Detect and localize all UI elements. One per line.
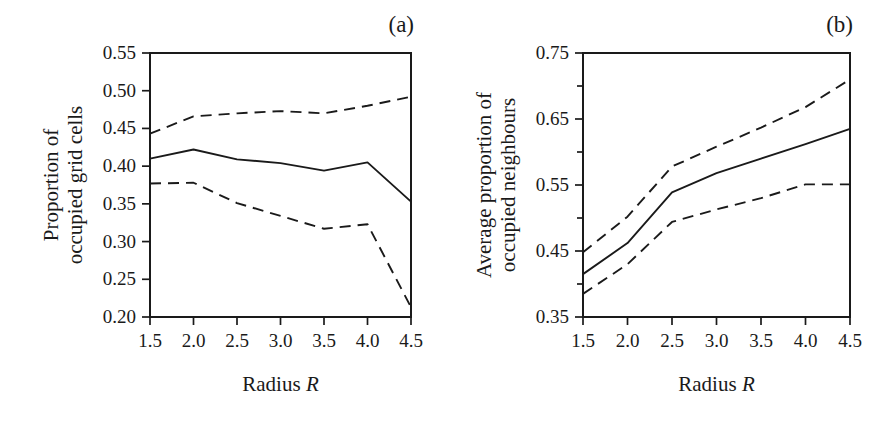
y-axis-tick-label: 0.55	[103, 42, 136, 63]
y-axis-tick-label: 0.20	[103, 306, 136, 327]
y-axis-tick-label: 0.45	[536, 240, 569, 261]
figure-container: 1.52.02.53.03.54.04.50.200.250.300.350.4…	[0, 0, 889, 424]
chart-a-svg: 1.52.02.53.03.54.04.50.200.250.300.350.4…	[0, 0, 445, 424]
plot-frame	[150, 53, 411, 317]
series-line-dashed	[150, 183, 411, 307]
x-axis-tick-label: 3.5	[312, 330, 336, 351]
x-axis-tick-label: 4.5	[399, 330, 423, 351]
y-axis-tick-label: 0.65	[536, 108, 569, 129]
chart-b-svg: 1.52.02.53.03.54.04.50.350.450.550.650.7…	[444, 0, 889, 424]
series-line-solid	[583, 129, 850, 274]
x-axis-tick-label: 4.5	[838, 330, 862, 351]
x-axis-title: Radius R	[242, 372, 319, 396]
x-axis-tick-label: 3.0	[705, 330, 729, 351]
y-axis-title-line2: occupied grid cells	[63, 106, 87, 265]
x-axis-tick-label: 3.0	[269, 330, 293, 351]
y-axis-tick-label: 0.40	[103, 155, 136, 176]
x-axis-tick-label: 4.0	[356, 330, 380, 351]
series-line-solid	[150, 150, 411, 202]
y-axis-tick-label: 0.45	[103, 117, 136, 138]
x-axis-tick-label: 1.5	[571, 330, 595, 351]
x-axis-tick-label: 3.5	[749, 330, 773, 351]
x-axis-tick-label: 1.5	[138, 330, 162, 351]
y-axis-tick-label: 0.35	[103, 193, 136, 214]
panel-label: (a)	[388, 12, 414, 37]
x-axis-tick-label: 4.0	[794, 330, 818, 351]
chart-panel-a: 1.52.02.53.03.54.04.50.200.250.300.350.4…	[0, 0, 445, 424]
series-line-dashed	[583, 79, 850, 252]
y-axis-tick-label: 0.55	[536, 174, 569, 195]
series-line-dashed	[150, 97, 411, 134]
y-axis-tick-label: 0.25	[103, 268, 136, 289]
y-axis-tick-label: 0.75	[536, 42, 569, 63]
y-axis-tick-label: 0.50	[103, 80, 136, 101]
x-axis-title: Radius R	[678, 372, 755, 396]
x-axis-tick-label: 2.5	[225, 330, 249, 351]
x-axis-tick-label: 2.0	[182, 330, 206, 351]
y-axis-tick-label: 0.35	[536, 306, 569, 327]
chart-panel-b: 1.52.02.53.03.54.04.50.350.450.550.650.7…	[444, 0, 889, 424]
y-axis-title-line1: Proportion of	[39, 129, 63, 242]
x-axis-tick-label: 2.0	[616, 330, 640, 351]
y-axis-title-line1: Average proportion of	[472, 92, 496, 278]
panel-label: (b)	[826, 12, 853, 37]
y-axis-title-line2: occupied neighbours	[496, 98, 520, 272]
x-axis-tick-label: 2.5	[660, 330, 684, 351]
y-axis-tick-label: 0.30	[103, 231, 136, 252]
series-line-dashed	[583, 184, 850, 294]
